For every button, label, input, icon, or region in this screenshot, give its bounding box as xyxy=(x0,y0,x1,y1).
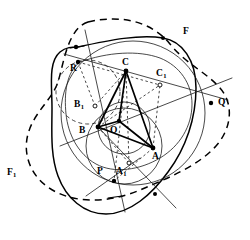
point-Q xyxy=(209,101,213,105)
label-O: O xyxy=(110,126,117,136)
segment-B-C1 xyxy=(98,85,160,127)
diagram-canvas xyxy=(0,0,250,240)
point-A1 xyxy=(127,161,131,165)
label-C: C xyxy=(122,58,129,68)
point-R xyxy=(74,45,78,49)
label-A1: A1 xyxy=(116,167,126,177)
segment-C-A1 xyxy=(126,71,129,163)
point-C1 xyxy=(158,83,162,87)
label-A: A xyxy=(152,152,159,162)
point-A xyxy=(151,146,156,151)
point-F xyxy=(161,36,165,40)
segment-R-C1-chord xyxy=(78,62,160,85)
point-C xyxy=(124,69,129,74)
label-B1: B1 xyxy=(74,100,84,110)
point-O xyxy=(117,119,121,123)
segment-A-C1 xyxy=(153,85,160,148)
label-B: B xyxy=(79,126,85,136)
point-B1 xyxy=(93,104,97,108)
geometry-figure: R C C1 F Q B1 B O A P A1 F1 xyxy=(0,0,250,240)
label-C1: C1 xyxy=(156,69,166,79)
segment-BA xyxy=(98,127,153,148)
label-F: F xyxy=(183,27,189,37)
point-Fb xyxy=(153,192,157,196)
point-B xyxy=(96,125,101,130)
label-F1: F1 xyxy=(7,168,16,178)
label-Q: Q xyxy=(218,98,225,108)
segment-P-axis xyxy=(86,158,140,196)
point-P xyxy=(112,179,116,183)
segment-R-Q-axis xyxy=(64,54,228,100)
label-P: P xyxy=(97,167,103,177)
segment-A-F-axis xyxy=(98,127,176,208)
segment-B-Q-axis xyxy=(60,78,232,146)
label-R: R xyxy=(70,64,77,74)
